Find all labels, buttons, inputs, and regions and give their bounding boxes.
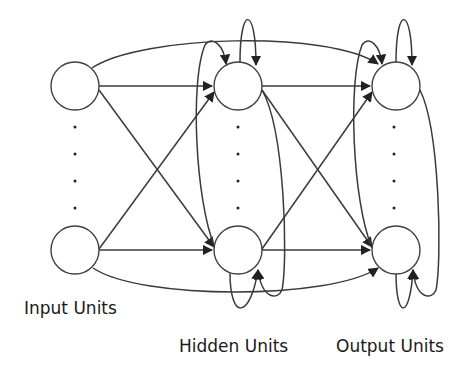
hidden-recurrent-right	[258, 90, 285, 296]
hidden-ellipsis	[237, 126, 240, 210]
input-ellipsis	[74, 126, 77, 210]
hidden-node-2	[214, 226, 262, 274]
output-recurrent-right	[413, 90, 439, 296]
output-node-1	[372, 62, 420, 110]
input-node-1	[51, 62, 99, 110]
network-diagram: Input Units Hidden Units Output Units	[0, 0, 470, 370]
output-units-label: Output Units	[336, 336, 444, 356]
hidden-bottom-self-loop	[230, 270, 258, 308]
output-bottom-self-loop	[396, 270, 413, 308]
hidden-units-label: Hidden Units	[179, 336, 288, 356]
output-ellipsis	[393, 126, 396, 210]
input-units-label: Input Units	[24, 298, 117, 318]
input-node-2	[51, 226, 99, 274]
hidden-node-1	[214, 62, 262, 110]
hidden-top-self-loop	[240, 20, 256, 65]
output-node-2	[372, 226, 420, 274]
output-top-self-loop	[396, 20, 412, 65]
